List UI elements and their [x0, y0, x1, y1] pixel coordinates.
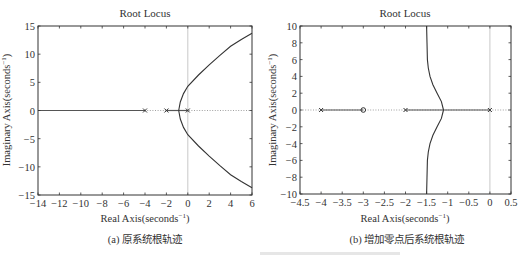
x-tick-label: 0	[487, 197, 492, 208]
panel-a-caption: (a) 原系统根轨迹	[108, 233, 183, 246]
x-tick-label: −2	[400, 197, 411, 208]
y-tick-label: 0	[292, 105, 297, 116]
x-tick-label: −2.5	[375, 197, 394, 208]
cropped-figure-caption	[260, 252, 400, 255]
x-tick-label: 0.5	[504, 197, 517, 208]
x-tick-label: 2	[207, 198, 212, 209]
y-tick-label: −6	[286, 155, 297, 166]
panel-a-plot-area: −14−12−10−8−6−4−20246−15−10−5051015	[19, 21, 255, 209]
panel-a-title: Root Locus	[119, 7, 170, 19]
y-tick-label: 6	[292, 55, 297, 66]
x-tick-label: 0	[185, 198, 190, 209]
y-tick-label: −15	[19, 190, 35, 201]
panel-b-plot-area: −4.5−4−3.5−3−2.5−2−1.5−1−0.500.5−10−8−6−…	[281, 21, 518, 208]
y-tick-label: 0	[30, 106, 35, 117]
x-tick-label: 4	[228, 198, 234, 209]
y-tick-label: 4	[292, 71, 298, 82]
panel-b-title: Root Locus	[379, 7, 430, 19]
x-tick-label: 6	[249, 198, 254, 209]
y-tick-label: −5	[24, 134, 35, 145]
x-tick-label: −2	[161, 198, 172, 209]
panel-a-original-system: Root Locus −14−12−10−8−6−4−20246−15−10−5…	[0, 7, 255, 246]
x-tick-label: −3	[358, 197, 369, 208]
y-tick-label: 5	[30, 77, 35, 88]
panel-b-added-zero-system: Root Locus −4.5−4−3.5−3−2.5−2−1.5−1−0.50…	[266, 7, 518, 246]
y-tick-label: 8	[292, 38, 297, 49]
x-tick-label: −3.5	[333, 197, 352, 208]
y-tick-label: −10	[19, 162, 35, 173]
x-tick-label: −6	[118, 198, 129, 209]
panel-a-ylabel: Imaginary Axis(seconds−1)	[0, 53, 13, 166]
y-tick-label: 15	[25, 21, 36, 32]
locus-branch-lower	[427, 110, 444, 194]
panel-a-xlabel: Real Axis(seconds−1)	[101, 212, 190, 225]
locus-branch-lower	[179, 111, 252, 188]
x-tick-label: −1.5	[417, 197, 436, 208]
y-tick-label: −10	[281, 189, 297, 200]
y-tick-label: 10	[287, 21, 298, 32]
x-tick-label: −0.5	[459, 197, 478, 208]
y-tick-label: 10	[25, 49, 36, 60]
x-tick-label: −4	[316, 197, 328, 208]
panel-b-ylabel: Imaginary Axis(seconds−1)	[266, 53, 279, 166]
panel-b-xlabel: Real Axis(seconds−1)	[361, 212, 450, 225]
y-tick-label: −4	[286, 139, 298, 150]
y-tick-label: 2	[292, 88, 297, 99]
y-tick-label: −2	[286, 122, 297, 133]
x-tick-label: −4	[139, 198, 151, 209]
x-tick-label: −12	[51, 198, 67, 209]
locus-branch-upper	[179, 33, 252, 110]
y-tick-label: −8	[286, 172, 297, 183]
x-tick-label: −1	[442, 197, 453, 208]
root-locus-figure: Root Locus −14−12−10−8−6−4−20246−15−10−5…	[0, 0, 527, 258]
x-tick-label: −8	[97, 198, 108, 209]
panel-b-caption: (b) 增加零点后系统根轨迹	[350, 233, 466, 246]
locus-branch-upper	[427, 26, 444, 110]
x-tick-label: −10	[73, 198, 89, 209]
